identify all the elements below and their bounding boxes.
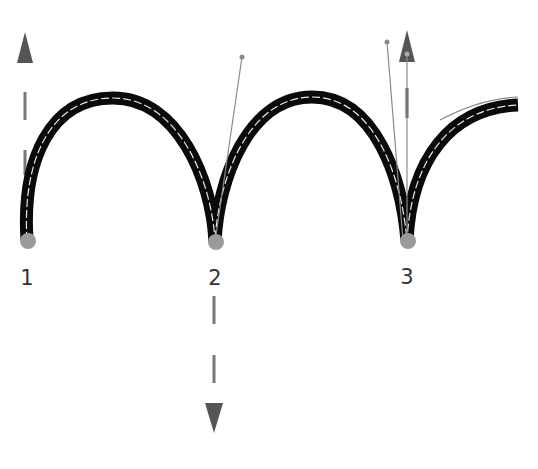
direction-arrow-down-2 [205,296,223,433]
handle-point-2 [240,55,245,60]
handle-point-3b [405,52,410,57]
handle-point-3a [385,40,390,45]
anchor-label-1: 1 [20,266,33,290]
anchor-point-2 [208,234,224,250]
anchor-label-3: 3 [400,265,413,289]
anchor-points [20,233,416,250]
anchor-point-3 [400,233,416,249]
anchor-point-1 [20,233,36,249]
curve-path [26,97,518,242]
bezier-diagram: 1 2 3 [0,0,538,469]
direction-arrow-up-1 [17,32,33,175]
anchor-label-2: 2 [208,266,221,290]
